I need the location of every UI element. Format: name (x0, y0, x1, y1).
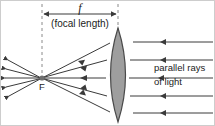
focal-length-caption-label: (focal length) (51, 18, 109, 29)
focal-point-label: F (39, 81, 45, 92)
ray-diagram-canvas: f (focal length) F parallel rays of ligh… (0, 0, 215, 126)
parallel-rays-label-line2: of light (154, 76, 182, 87)
optics-figure: f (focal length) F parallel rays of ligh… (0, 0, 215, 126)
focal-point-dot (39, 75, 44, 80)
parallel-rays-label-line1: parallel rays (154, 62, 205, 73)
